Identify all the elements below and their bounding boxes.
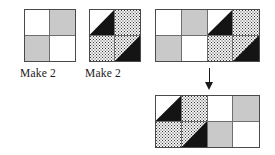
row-grid <box>156 96 259 147</box>
patch-top-left <box>25 10 50 36</box>
fabric-dot <box>156 122 182 148</box>
patch <box>208 122 234 148</box>
patch <box>182 10 208 36</box>
patch <box>233 10 259 36</box>
patch <box>233 36 259 62</box>
patch-bottom-right <box>115 36 140 62</box>
unit-grid <box>25 10 75 61</box>
patch <box>182 36 208 62</box>
fabric-white <box>233 122 259 148</box>
four-patch-unit <box>24 9 76 62</box>
patch <box>156 10 182 36</box>
fabric-gray <box>156 36 182 62</box>
patch <box>233 96 259 122</box>
fabric-white <box>50 36 75 62</box>
patch <box>208 96 234 122</box>
pinwheel-unit-label: Make 2 <box>85 68 121 80</box>
assembled-row-top <box>155 9 260 62</box>
diagram-canvas: Make 2 Make 2 <box>0 0 275 155</box>
arrow-down-icon <box>203 68 215 90</box>
patch-bottom-left <box>90 36 115 62</box>
patch <box>182 122 208 148</box>
patch <box>156 36 182 62</box>
unit-grid <box>90 10 140 61</box>
fabric-dot <box>115 10 140 36</box>
fabric-gray <box>208 122 234 148</box>
fabric-gray <box>25 36 50 62</box>
patch <box>208 36 234 62</box>
fabric-white <box>182 36 208 62</box>
fabric-dot <box>90 36 115 62</box>
fabric-white <box>156 10 182 36</box>
patch-bottom-right <box>50 36 75 62</box>
fabric-gray <box>50 10 75 36</box>
pinwheel-unit <box>89 9 141 62</box>
patch-top-right <box>50 10 75 36</box>
assembled-row-bottom <box>155 95 260 148</box>
fabric-dot <box>233 10 259 36</box>
fabric-dot <box>182 96 208 122</box>
patch <box>233 122 259 148</box>
fabric-gray <box>233 96 259 122</box>
patch <box>182 96 208 122</box>
patch <box>208 10 234 36</box>
fabric-white <box>25 10 50 36</box>
fabric-gray <box>182 10 208 36</box>
patch-top-left <box>90 10 115 36</box>
fabric-white <box>208 96 234 122</box>
fabric-dot <box>208 36 234 62</box>
patch-bottom-left <box>25 36 50 62</box>
patch-top-right <box>115 10 140 36</box>
four-patch-unit-label: Make 2 <box>20 68 56 80</box>
patch <box>156 122 182 148</box>
patch <box>156 96 182 122</box>
row-grid <box>156 10 259 61</box>
